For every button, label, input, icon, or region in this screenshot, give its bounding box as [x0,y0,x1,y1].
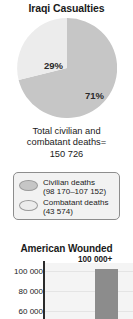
bar-chart-plot-area [45,263,133,319]
y-axis-line [43,261,45,319]
pie-chart-title: Iraqi Casualties [0,2,133,14]
bar-chart: 100 000 80 000 60 000 100 000+ [0,258,133,319]
legend-swatch-civilian [19,180,38,191]
pie-total-caption: Total civilian and combatant deaths= 150… [0,126,133,160]
legend-label-combatant: Combatant deaths (43 574) [43,198,108,216]
y-axis-tick-60000: 60 000 [0,307,43,316]
pie-chart: 29% 71% [17,18,117,118]
legend-label-civilian-name: Civilian deaths [43,178,95,187]
gridline-100000 [45,271,133,272]
legend-item-civilian: Civilian deaths (98 170–107 152) [19,178,106,196]
legend-item-combatant: Combatant deaths (43 574) [19,198,108,216]
pie-total-line-1: Total civilian and [0,126,133,137]
pie-legend: Civilian deaths (98 170–107 152) Combata… [13,172,120,220]
legend-swatch-combatant [19,200,38,211]
legend-label-combatant-name: Combatant deaths [43,198,108,207]
y-axis-tick-100000: 100 000 [0,267,43,276]
pie-total-line-3: 150 726 [0,149,133,160]
gridline-60000 [45,311,133,312]
pie-chart-svg [17,18,117,118]
bar-value-label: 100 000+ [78,255,112,264]
pie-total-line-2: combatant deaths= [0,137,133,148]
pie-slice-label-combatant: 29% [44,60,63,71]
gridline-80000 [45,291,133,292]
y-axis-tick-80000: 80 000 [0,287,43,296]
legend-label-civilian-range: (98 170–107 152) [43,187,106,196]
infographic-root: Iraqi Casualties 29% 71% Total civilian … [0,0,133,319]
pie-slice-label-civilian: 71% [85,90,104,101]
legend-label-civilian: Civilian deaths (98 170–107 152) [43,178,106,196]
bar-american-wounded [95,269,118,319]
legend-label-combatant-range: (43 574) [43,207,73,216]
bar-chart-title: American Wounded [0,243,133,254]
